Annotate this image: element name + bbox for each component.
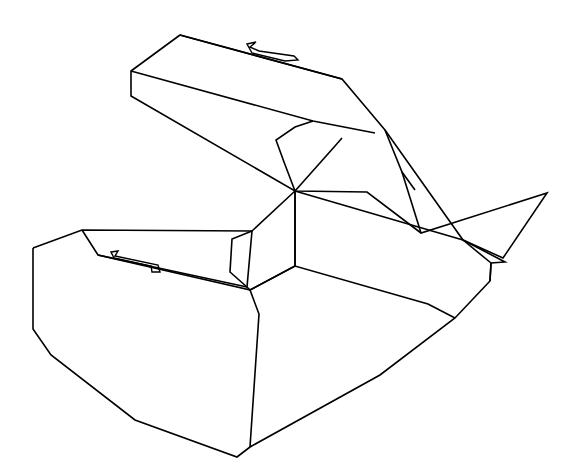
open-box-line-drawing xyxy=(0,0,577,469)
body-right-corner-edge xyxy=(490,263,491,281)
canvas-background xyxy=(0,0,577,469)
drawing-canvas xyxy=(0,0,577,469)
